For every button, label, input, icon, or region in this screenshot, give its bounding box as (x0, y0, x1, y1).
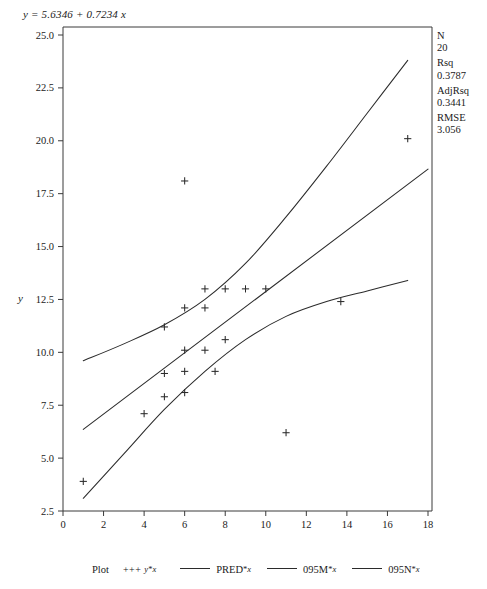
svg-text:15.0: 15.0 (36, 241, 54, 252)
svg-text:18: 18 (423, 519, 434, 530)
svg-text:6: 6 (182, 519, 187, 530)
legend-item-095n: 095N*x (352, 564, 419, 575)
svg-text:8: 8 (223, 519, 228, 530)
legend-item-pred: PRED*x (180, 564, 251, 575)
legend-line-095n (352, 568, 382, 569)
legend-line-pred (180, 568, 210, 569)
svg-text:5.0: 5.0 (41, 453, 54, 464)
svg-text:2: 2 (101, 519, 106, 530)
svg-text:25.0: 25.0 (36, 30, 54, 41)
legend-label-095n: 095N (388, 564, 411, 575)
svg-text:12.5: 12.5 (36, 294, 54, 305)
legend-label-x1: x (247, 564, 251, 574)
svg-text:10: 10 (261, 519, 272, 530)
legend-label-095m: 095M (303, 564, 328, 575)
legend-label-x0: x (152, 564, 156, 574)
svg-text:14: 14 (342, 519, 353, 530)
svg-text:17.5: 17.5 (36, 188, 54, 199)
svg-text:22.5: 22.5 (36, 82, 54, 93)
svg-text:2.5: 2.5 (41, 506, 54, 517)
svg-text:20.0: 20.0 (36, 135, 54, 146)
legend-label-pred: PRED (216, 564, 243, 575)
svg-text:4: 4 (141, 519, 147, 530)
legend-item-095m: 095M*x (267, 564, 336, 575)
svg-text:7.5: 7.5 (41, 400, 54, 411)
legend-title: Plot (92, 564, 109, 575)
svg-text:0: 0 (60, 519, 65, 530)
svg-text:16: 16 (382, 519, 393, 530)
svg-text:10.0: 10.0 (36, 347, 54, 358)
svg-text:12: 12 (301, 519, 312, 530)
regression-plot: y = 5.6346 + 0.7234 x N 20 Rsq 0.3787 Ad… (0, 0, 487, 589)
plot-canvas: 2.55.07.510.012.515.017.520.022.525.0024… (0, 0, 487, 589)
legend-marker-plus: +++ (123, 564, 141, 575)
legend-line-095m (267, 568, 297, 569)
legend-label-x2: x (332, 564, 336, 574)
legend-label-x3: x (416, 564, 420, 574)
plot-legend: Plot +++y*x PRED*x 095M*x 095N*x (92, 559, 422, 579)
legend-item-scatter: +++y*x (123, 564, 156, 575)
